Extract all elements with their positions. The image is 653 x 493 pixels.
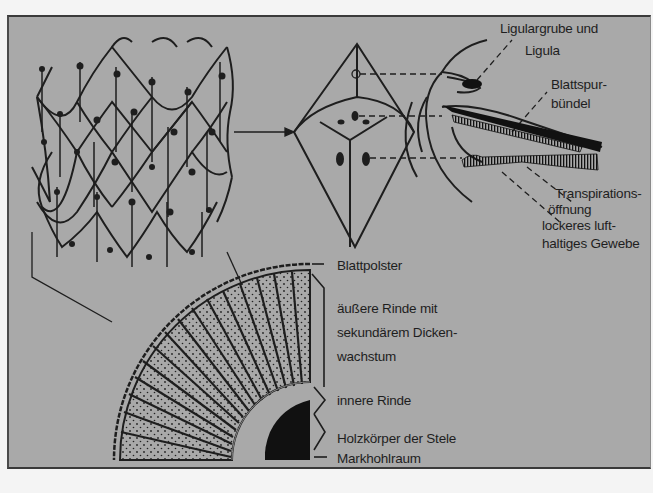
label-innere-rinde: innere Rinde <box>337 393 411 409</box>
label-gewebe: haltiges Gewebe <box>542 236 640 252</box>
label-blattpolster: Blattpolster <box>337 258 402 274</box>
arrow-to-cushion <box>234 128 294 136</box>
label-blattspur: Blattspur- <box>551 77 607 93</box>
label-buendel: bündel <box>551 96 590 112</box>
label-wachstum: wachstum <box>337 349 396 365</box>
label-sekundaerem: sekundärem Dicken- <box>337 325 457 341</box>
label-markhohlraum: Markhohlraum <box>337 451 421 467</box>
brackets <box>312 264 327 457</box>
figure-frame: Ligulargrube und Ligula Blattspur- bünde… <box>7 15 651 469</box>
label-oeffnung: öffnung <box>548 202 591 218</box>
label-aeussere-rinde: äußere Rinde mit <box>337 301 437 317</box>
label-ligulargrube: Ligulargrube und <box>500 21 598 37</box>
label-ligula: Ligula <box>525 43 560 59</box>
holzkoerper-stele <box>265 400 310 460</box>
vascular-bundle-band <box>442 105 602 152</box>
label-transpirations: Transpirations- <box>555 186 642 202</box>
stem-cross-section <box>114 264 327 460</box>
label-holzkoerper: Holzkörper der Stele <box>337 431 456 447</box>
leaf-cushion-surface <box>32 38 233 267</box>
label-lockeres: lockeres luft- <box>542 218 616 234</box>
ligula <box>462 79 482 89</box>
